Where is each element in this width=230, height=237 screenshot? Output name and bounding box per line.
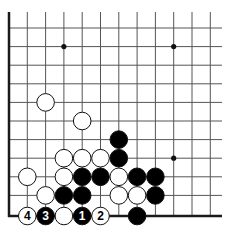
white-stone: [73, 112, 91, 130]
white-stone: [55, 149, 73, 167]
black-stone: [73, 187, 91, 205]
white-stone: [92, 149, 110, 167]
move-number-label: 2: [97, 209, 104, 223]
stone-circle: [73, 187, 91, 205]
move-number-label: 1: [79, 209, 86, 223]
stone-circle: [110, 187, 128, 205]
white-stone: [55, 168, 73, 186]
go-board-canvas: 4312: [0, 0, 230, 237]
stone-circle: [37, 94, 55, 112]
stone-circle: [73, 149, 91, 167]
stone-circle: [147, 187, 165, 205]
black-stone: [92, 168, 110, 186]
stone-circle: [110, 168, 128, 186]
white-stone: [37, 94, 55, 112]
stone-circle: [110, 149, 128, 167]
white-stone: 2: [92, 207, 110, 225]
black-stone: [147, 187, 165, 205]
stone-circle: [73, 168, 91, 186]
stone-circle: [128, 187, 146, 205]
white-stone: [37, 187, 55, 205]
stone-circle: [128, 168, 146, 186]
white-stone: [128, 187, 146, 205]
stone-circle: [37, 187, 55, 205]
black-stone: [55, 187, 73, 205]
star-point: [171, 156, 176, 161]
stone-circle: [55, 187, 73, 205]
black-stone: 3: [37, 207, 55, 225]
stone-circle: [128, 207, 146, 225]
white-stone: [55, 207, 73, 225]
move-number-label: 4: [24, 209, 31, 223]
star-point: [61, 44, 66, 49]
go-board-diagram: 4312: [0, 0, 230, 237]
star-point: [171, 44, 176, 49]
white-stone: [73, 149, 91, 167]
white-stone: [110, 168, 128, 186]
black-stone: [110, 131, 128, 149]
stone-circle: [147, 168, 165, 186]
stone-circle: [55, 207, 73, 225]
stones-layer: 4312: [19, 94, 165, 225]
black-stone: [128, 168, 146, 186]
black-stone: [73, 168, 91, 186]
stone-circle: [55, 149, 73, 167]
white-stone: 4: [19, 207, 37, 225]
black-stone: [128, 207, 146, 225]
white-stone: [19, 168, 37, 186]
stone-circle: [110, 131, 128, 149]
stone-circle: [55, 168, 73, 186]
board-edges: [8, 12, 222, 217]
stone-circle: [92, 168, 110, 186]
black-stone: [147, 168, 165, 186]
black-stone: 1: [73, 207, 91, 225]
stone-circle: [73, 112, 91, 130]
move-number-label: 3: [42, 209, 49, 223]
stone-circle: [92, 149, 110, 167]
stone-circle: [19, 168, 37, 186]
white-stone: [110, 187, 128, 205]
black-stone: [110, 149, 128, 167]
